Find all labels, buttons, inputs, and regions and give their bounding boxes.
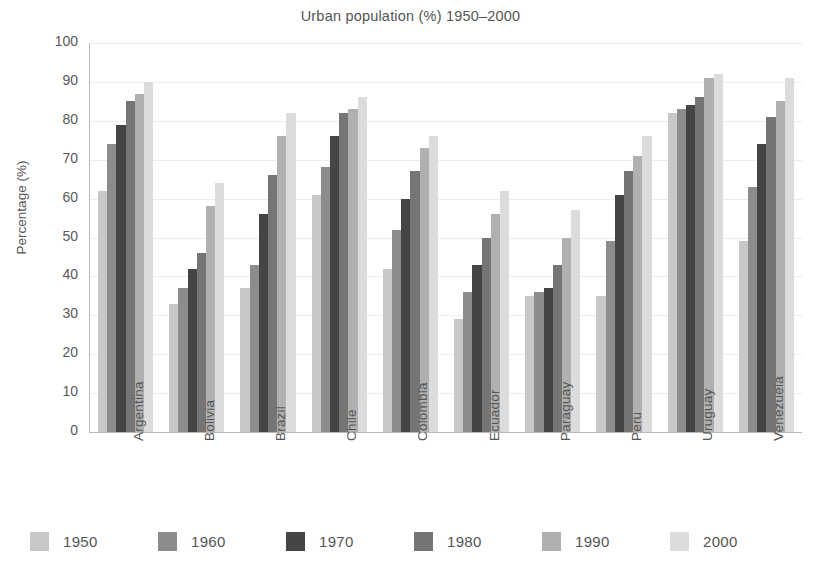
legend-item[interactable]: 1990 xyxy=(542,530,610,552)
bar xyxy=(695,97,704,432)
bar xyxy=(454,319,463,432)
bar xyxy=(98,191,107,432)
bar xyxy=(383,269,392,432)
legend-item[interactable]: 1970 xyxy=(286,530,354,552)
bar-group xyxy=(454,43,509,432)
bar xyxy=(757,144,766,432)
bar xyxy=(544,288,553,432)
bar xyxy=(785,78,794,432)
y-tick-label: 100 xyxy=(16,33,78,49)
bar xyxy=(268,175,277,432)
bar xyxy=(339,113,348,432)
x-tick-label: Venezuela xyxy=(771,376,786,441)
bar xyxy=(250,265,259,432)
x-tick-label: Peru xyxy=(629,412,644,441)
bar-group xyxy=(312,43,367,432)
bar xyxy=(739,241,748,432)
bar xyxy=(178,288,187,432)
bar xyxy=(286,113,295,432)
bar-group xyxy=(525,43,580,432)
x-tick-label: Chile xyxy=(344,409,359,441)
bar xyxy=(615,195,624,432)
chart-title: Urban population (%) 1950–2000 xyxy=(0,8,821,24)
chart-legend: 195019601970198019902000 xyxy=(30,530,800,556)
y-tick-label: 0 xyxy=(16,422,78,438)
chart-figure: Urban population (%) 1950–2000 Percentag… xyxy=(0,0,821,574)
bar xyxy=(463,292,472,432)
bar-group xyxy=(739,43,794,432)
x-tick-label: Colombia xyxy=(415,382,430,441)
y-tick-label: 40 xyxy=(16,266,78,282)
legend-label: 2000 xyxy=(703,533,738,550)
bar xyxy=(525,296,534,432)
y-tick-label: 20 xyxy=(16,344,78,360)
bar xyxy=(748,187,757,432)
bar xyxy=(633,156,642,432)
legend-item[interactable]: 1980 xyxy=(414,530,482,552)
bar xyxy=(330,136,339,432)
legend-label: 1960 xyxy=(191,533,226,550)
y-tick-label: 70 xyxy=(16,150,78,166)
x-tick-label: Bolivia xyxy=(202,400,217,441)
plot-area xyxy=(89,43,802,433)
y-tick-label: 30 xyxy=(16,305,78,321)
bar-group xyxy=(668,43,723,432)
x-tick-label: Brazil xyxy=(273,406,288,441)
bar xyxy=(401,199,410,432)
bar xyxy=(259,214,268,432)
bar xyxy=(472,265,481,432)
bar xyxy=(116,125,125,432)
y-tick-label: 60 xyxy=(16,189,78,205)
bar xyxy=(277,136,286,432)
legend-swatch-icon xyxy=(30,532,49,551)
legend-swatch-icon xyxy=(670,532,689,551)
bar xyxy=(358,97,367,432)
x-tick-label: Paraguay xyxy=(558,382,573,441)
bar xyxy=(668,113,677,432)
bar xyxy=(321,167,330,432)
bar xyxy=(677,109,686,432)
bar-group xyxy=(98,43,153,432)
legend-label: 1990 xyxy=(575,533,610,550)
y-tick-label: 10 xyxy=(16,383,78,399)
bar xyxy=(215,183,224,432)
bar xyxy=(206,206,215,432)
bar xyxy=(348,109,357,432)
legend-swatch-icon xyxy=(286,532,305,551)
bar xyxy=(606,241,615,432)
legend-swatch-icon xyxy=(414,532,433,551)
legend-label: 1970 xyxy=(319,533,354,550)
y-tick-label: 90 xyxy=(16,72,78,88)
legend-item[interactable]: 2000 xyxy=(670,530,738,552)
legend-label: 1950 xyxy=(63,533,98,550)
bar xyxy=(392,230,401,432)
bar xyxy=(714,74,723,432)
bar-group xyxy=(240,43,295,432)
x-tick-label: Ecuador xyxy=(487,389,502,441)
bar xyxy=(596,296,605,432)
bar xyxy=(624,171,633,432)
bar xyxy=(188,269,197,432)
bar-group xyxy=(169,43,224,432)
bar xyxy=(107,144,116,432)
bar xyxy=(144,82,153,432)
bar xyxy=(169,304,178,432)
bar xyxy=(534,292,543,432)
y-tick-label: 50 xyxy=(16,228,78,244)
bar xyxy=(429,136,438,432)
x-tick-label: Uruguay xyxy=(700,389,715,441)
bar-group xyxy=(383,43,438,432)
bar-group xyxy=(596,43,651,432)
x-tick-label: Argentina xyxy=(131,381,146,441)
legend-item[interactable]: 1960 xyxy=(158,530,226,552)
bar xyxy=(240,288,249,432)
legend-label: 1980 xyxy=(447,533,482,550)
legend-swatch-icon xyxy=(542,532,561,551)
bar xyxy=(642,136,651,432)
bar xyxy=(704,78,713,432)
legend-item[interactable]: 1950 xyxy=(30,530,98,552)
y-tick-label: 80 xyxy=(16,111,78,127)
bar xyxy=(312,195,321,432)
bar xyxy=(686,105,695,432)
legend-swatch-icon xyxy=(158,532,177,551)
